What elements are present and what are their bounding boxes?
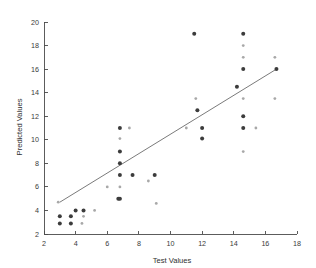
data-point [131, 173, 135, 177]
data-point [242, 56, 245, 59]
x-tick-label: 14 [230, 239, 238, 248]
y-tick-label: 16 [31, 65, 39, 74]
data-point [242, 150, 245, 153]
data-point [153, 173, 157, 177]
data-point [69, 214, 73, 218]
data-point [200, 137, 204, 141]
data-point [274, 67, 278, 71]
tick-labels-group: 246810121416182468101214161820 [31, 18, 301, 248]
data-point [241, 114, 245, 118]
data-point [69, 221, 73, 225]
data-point [185, 127, 188, 130]
data-point [118, 197, 122, 201]
data-point [192, 32, 196, 36]
y-tick-label: 14 [31, 88, 39, 97]
data-point [194, 97, 197, 100]
data-point [195, 108, 199, 112]
data-point [106, 185, 109, 188]
regression-line-segment [60, 69, 277, 202]
data-point [119, 185, 122, 188]
data-point [242, 44, 245, 47]
data-point [118, 150, 122, 154]
y-tick-label: 2 [35, 230, 39, 239]
data-points-group [57, 32, 279, 226]
scatter-plot-figure: 246810121416182468101214161820 Test Valu… [0, 0, 316, 268]
data-point [57, 201, 60, 204]
x-tick-label: 12 [198, 239, 206, 248]
data-point [74, 208, 78, 212]
data-point [119, 137, 122, 140]
data-point [241, 32, 245, 36]
data-point [118, 173, 122, 177]
data-point [273, 97, 276, 100]
y-tick-label: 12 [31, 112, 39, 121]
data-point [58, 214, 62, 218]
y-tick-label: 20 [31, 18, 39, 27]
y-tick-label: 6 [35, 182, 39, 191]
x-tick-label: 2 [42, 239, 46, 248]
x-tick-label: 8 [137, 239, 141, 248]
data-point [200, 126, 204, 130]
data-point [273, 56, 276, 59]
data-point [58, 221, 62, 225]
y-tick-label: 18 [31, 41, 39, 50]
data-point [241, 67, 245, 71]
y-axis-title: Predicted Values [15, 98, 24, 155]
x-tick-label: 6 [105, 239, 109, 248]
data-point [93, 209, 96, 212]
axes-group [44, 22, 297, 234]
plot-canvas: 246810121416182468101214161820 Test Valu… [0, 0, 316, 268]
tick-marks-group [44, 22, 297, 234]
data-point [82, 208, 86, 212]
data-point [118, 126, 122, 130]
data-point [241, 126, 245, 130]
data-point [235, 85, 239, 89]
x-tick-label: 4 [74, 239, 78, 248]
y-tick-label: 10 [31, 135, 39, 144]
data-point [242, 97, 245, 100]
data-point [82, 215, 85, 218]
data-point [128, 127, 131, 130]
y-tick-label: 8 [35, 159, 39, 168]
x-axis-title: Test Values [153, 256, 192, 265]
data-point [147, 180, 150, 183]
y-tick-label: 4 [35, 206, 39, 215]
x-tick-label: 18 [293, 239, 301, 248]
data-point [118, 161, 122, 165]
x-tick-label: 16 [261, 239, 269, 248]
data-point [155, 202, 158, 205]
regression-line [60, 69, 277, 202]
data-point [254, 127, 257, 130]
data-point [81, 222, 84, 225]
x-tick-label: 10 [167, 239, 175, 248]
